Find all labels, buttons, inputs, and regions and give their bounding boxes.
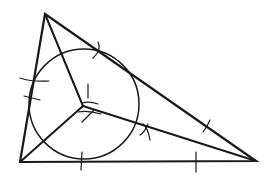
triangle	[20, 14, 256, 162]
incircle	[29, 49, 139, 159]
incircle-diagram	[0, 0, 273, 186]
